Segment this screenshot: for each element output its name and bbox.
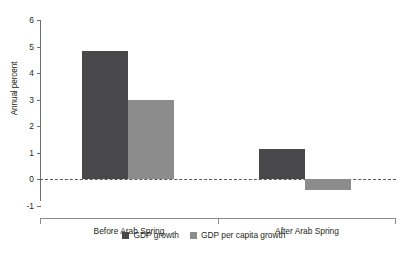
bar-after-gdp-growth xyxy=(259,149,305,180)
y-axis-title: Annual percent xyxy=(10,44,19,134)
y-tick-label-6: 6 xyxy=(29,16,34,24)
bar-before-gdp-per-capita-growth xyxy=(128,100,174,180)
legend-item-gdp-per-capita-growth: GDP per capita growth xyxy=(190,231,286,240)
bar-before-gdp-growth xyxy=(82,51,128,180)
x-axis-separator-left xyxy=(40,218,41,224)
y-tick-label-3: 3 xyxy=(29,95,34,103)
legend-item-gdp-growth: GDP growth xyxy=(122,231,178,240)
legend-label-gdp-per-capita-growth: GDP per capita growth xyxy=(201,231,286,240)
legend-swatch-dark-icon xyxy=(122,232,129,239)
plot-area: 6 5 4 3 2 1 0 -1 xyxy=(40,18,396,200)
y-tick-label-2: 2 xyxy=(29,122,34,130)
y-tick-label-5: 5 xyxy=(29,42,34,50)
chart-legend: GDP growth GDP per capita growth xyxy=(0,231,408,240)
bar-after-gdp-per-capita-growth xyxy=(305,179,351,190)
y-tick-label-4: 4 xyxy=(29,69,34,77)
x-axis-separator-mid xyxy=(218,218,219,224)
y-tick-label-1: 1 xyxy=(29,148,34,156)
y-tick-label-neg1: -1 xyxy=(27,201,34,209)
x-axis-separator-right xyxy=(395,218,396,224)
y-tick-label-0: 0 xyxy=(29,175,34,183)
legend-swatch-light-icon xyxy=(190,232,197,239)
legend-label-gdp-growth: GDP growth xyxy=(133,231,178,240)
bar-chart: Annual percent 6 5 4 3 2 1 0 xyxy=(0,0,408,257)
